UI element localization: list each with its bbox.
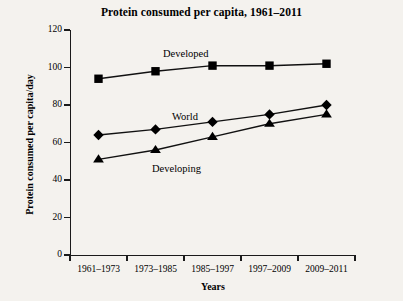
series-developed <box>94 60 330 83</box>
data-point <box>150 124 160 134</box>
series-label-world: World <box>172 111 198 122</box>
data-point <box>321 100 331 110</box>
data-point <box>264 109 274 119</box>
data-point <box>322 60 330 68</box>
y-tick <box>64 254 70 255</box>
data-point <box>93 130 103 140</box>
y-tick <box>64 179 70 180</box>
chart-figure: Protein consumed per capita, 1961–2011 0… <box>0 0 403 301</box>
data-point <box>207 117 217 127</box>
y-tick <box>64 67 70 68</box>
data-point <box>321 109 332 117</box>
data-point <box>94 75 102 83</box>
y-tick <box>64 142 70 143</box>
data-point <box>208 61 216 69</box>
data-point <box>151 67 159 75</box>
series-label-developed: Developed <box>163 48 208 59</box>
y-tick <box>64 29 70 30</box>
y-tick <box>64 104 70 105</box>
y-tick <box>64 217 70 218</box>
series-layer <box>0 0 403 301</box>
data-point <box>265 61 273 69</box>
series-label-developing: Developing <box>152 163 201 174</box>
